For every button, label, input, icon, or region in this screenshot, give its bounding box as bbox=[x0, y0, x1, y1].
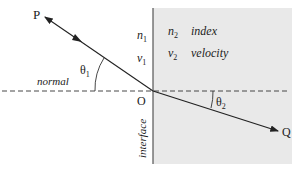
point-p-label: P bbox=[33, 7, 40, 22]
index-label: index bbox=[191, 24, 218, 38]
theta1-label: θ1 bbox=[80, 63, 90, 79]
incident-direction-arrow-icon bbox=[72, 34, 82, 42]
refraction-diagram: P O Q θ1 θ2 normal interface n1 v1 n2 in… bbox=[0, 0, 300, 178]
point-o-label: O bbox=[137, 94, 146, 108]
velocity-label: velocity bbox=[191, 46, 229, 60]
n1-label: n1 bbox=[137, 28, 147, 44]
point-q-label: Q bbox=[282, 125, 291, 139]
v1-label: v1 bbox=[137, 51, 146, 67]
theta1-arc bbox=[95, 58, 104, 91]
interface-label: interface bbox=[136, 119, 148, 158]
normal-label: normal bbox=[37, 75, 69, 87]
